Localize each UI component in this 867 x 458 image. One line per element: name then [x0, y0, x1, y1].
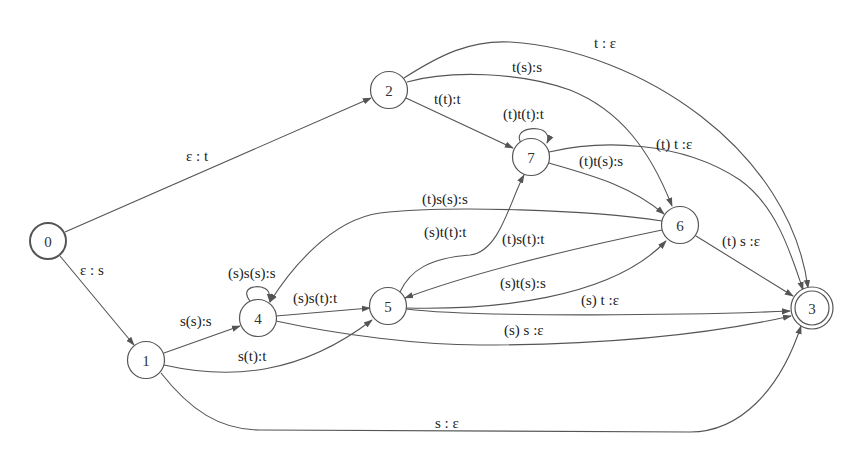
edge-label-1-4: s(s):s	[180, 313, 212, 330]
edge-label-6-3: (t) s :ε	[722, 233, 760, 250]
state-label: 1	[142, 353, 150, 369]
edge-label-7-7: (t)t(t):t	[503, 106, 545, 123]
edge-label-7-3: (t) t :ε	[656, 136, 692, 153]
state-label: 5	[384, 299, 392, 315]
edge-label-5-7: (s)t(t):t	[424, 224, 467, 241]
edge-label-5-6: (s)t(s):s	[500, 275, 546, 292]
state-0-initial: 0	[30, 223, 66, 259]
edge-1-3	[161, 326, 801, 432]
edge-label-5-3: (s) t :ε	[581, 292, 619, 309]
edge-5-3	[406, 309, 790, 315]
state-label: 2	[385, 83, 393, 99]
edge-4-5	[276, 308, 370, 316]
edge-label-7-6: (t)t(s):s	[579, 153, 623, 170]
state-3-final: 3	[791, 287, 833, 329]
edge-label-1-5: s(t):t	[238, 348, 267, 365]
edge-7-6	[549, 163, 664, 214]
fst-diagram: ε : t ε : s s(s):s s(t):t s : ε t : ε t(…	[0, 0, 867, 458]
state-7: 7	[513, 139, 550, 176]
edge-0-2	[65, 98, 371, 232]
edge-label-0-2: ε : t	[186, 148, 209, 164]
state-4: 4	[240, 300, 277, 337]
state-5: 5	[370, 288, 407, 325]
state-label: 6	[676, 218, 684, 234]
edge-label-2-6: t(s):s	[512, 59, 542, 76]
edge-label-4-3: (s) s :ε	[504, 322, 544, 339]
edge-label-6-5: (t)s(t):t	[502, 231, 545, 248]
state-2: 2	[371, 72, 408, 109]
edge-label-4-5: (s)s(t):t	[293, 290, 338, 307]
edge-label-1-3: s : ε	[435, 415, 459, 431]
edge-label-2-3: t : ε	[594, 35, 616, 51]
edge-1-4	[164, 326, 240, 353]
edge-label-2-7: t(t):t	[434, 91, 461, 108]
state-label: 4	[254, 311, 262, 327]
state-1: 1	[128, 342, 165, 379]
edge-label-6-4: (t)s(s):s	[422, 191, 468, 208]
state-label: 0	[44, 234, 52, 250]
state-6: 6	[662, 207, 699, 244]
state-label: 7	[527, 150, 535, 166]
state-label: 3	[808, 301, 816, 317]
edge-label-0-1: ε : s	[80, 262, 104, 278]
edge-label-4-4: (s)s(s):s	[228, 265, 276, 282]
